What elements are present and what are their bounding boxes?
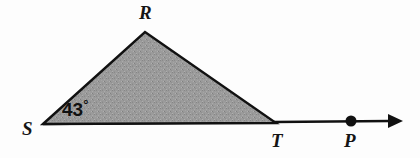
angle-value: 43 xyxy=(62,99,83,120)
point-marker-p xyxy=(346,116,357,127)
vertex-label-s: S xyxy=(22,119,33,138)
degree-symbol-icon: ° xyxy=(83,97,88,112)
geometry-figure: S R T P 43° xyxy=(0,0,420,158)
vertex-label-r: R xyxy=(139,3,152,22)
geometry-canvas xyxy=(0,0,420,158)
ray-arrowhead-icon xyxy=(388,114,403,128)
angle-measure-label-s: 43° xyxy=(62,98,88,119)
point-label-p: P xyxy=(344,131,356,150)
vertex-label-t: T xyxy=(271,131,283,150)
